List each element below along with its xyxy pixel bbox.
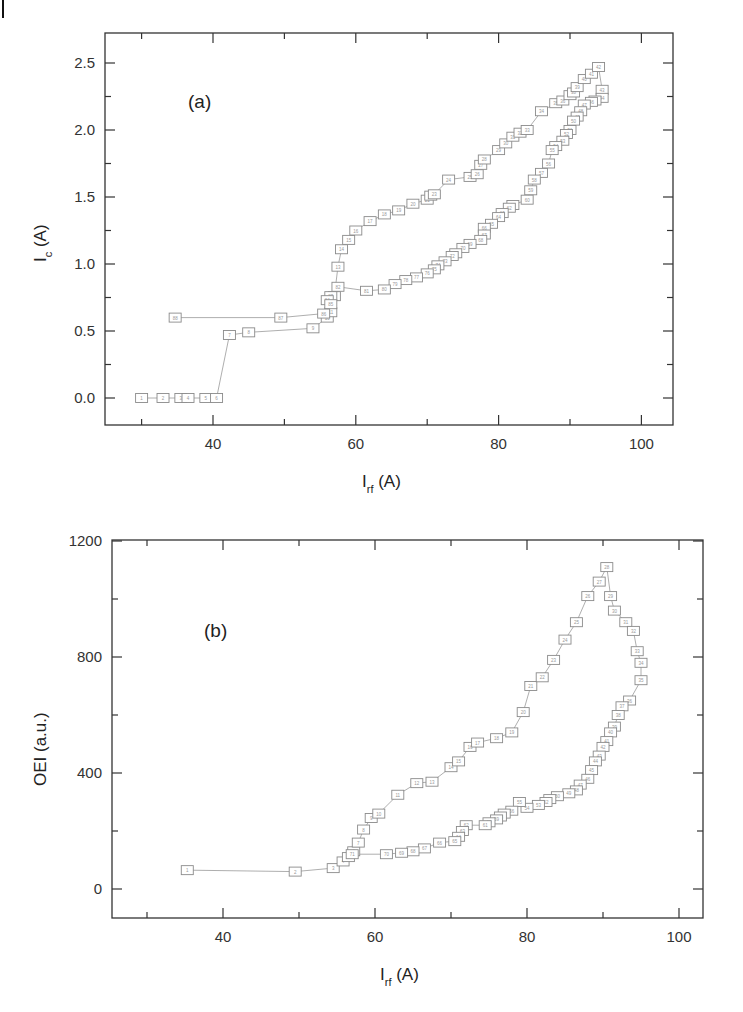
- marker-index: 38: [616, 713, 622, 718]
- marker-index: 86: [321, 312, 327, 317]
- marker-index: 37: [619, 704, 625, 709]
- marker-index: 26: [585, 594, 591, 599]
- marker-index: 29: [608, 594, 614, 599]
- x-tick-label: 80: [490, 435, 507, 452]
- marker-index: 60: [525, 198, 531, 203]
- panel-label: (b): [204, 620, 227, 641]
- marker-index: 17: [475, 741, 481, 746]
- chart-panel-b: 40608010004008001200 1234567891011121314…: [31, 532, 703, 988]
- marker-index: 66: [437, 841, 443, 846]
- marker-index: 34: [638, 661, 644, 666]
- data-series: 1234567891011121314151617181920212223242…: [136, 63, 609, 403]
- marker-index: 78: [403, 278, 409, 283]
- marker-index: 18: [494, 736, 500, 741]
- marker-index: 55: [550, 148, 556, 153]
- marker-index: 67: [422, 846, 428, 851]
- x-tick-label: 60: [367, 928, 384, 945]
- marker-index: 79: [393, 282, 399, 287]
- marker-index: 24: [562, 638, 568, 643]
- y-tick-label: 1200: [69, 532, 102, 549]
- marker-index: 77: [414, 275, 420, 280]
- x-tick-label: 60: [347, 435, 364, 452]
- marker-index: 70: [384, 852, 390, 857]
- y-tick-label: 1.5: [74, 188, 95, 205]
- y-tick-label: 400: [77, 764, 102, 781]
- marker-index: 11: [395, 793, 400, 798]
- marker-index: 45: [589, 768, 595, 773]
- y-tick-label: 2.0: [74, 121, 95, 138]
- marker-index: 49: [566, 791, 572, 796]
- marker-index: 44: [593, 759, 599, 764]
- marker-index: 61: [483, 823, 489, 828]
- marker-index: 31: [623, 620, 629, 625]
- marker-index: 56: [546, 162, 552, 167]
- marker-index: 41: [589, 72, 595, 77]
- marker-index: 23: [432, 192, 438, 197]
- marker-index: 39: [575, 85, 581, 90]
- marker-index: 27: [597, 580, 603, 585]
- x-tick-label: 100: [666, 928, 691, 945]
- figure: 4060801000.00.51.01.52.02.5 123456789101…: [0, 0, 743, 1012]
- marker-index: 68: [410, 849, 416, 854]
- x-tick-label: 40: [205, 435, 222, 452]
- marker-index: 21: [528, 684, 534, 689]
- marker-index: 87: [278, 316, 284, 321]
- y-tick-label: 1.0: [74, 255, 95, 272]
- marker-index: 13: [429, 780, 435, 785]
- marker-index: 28: [604, 565, 610, 570]
- marker-index: 30: [612, 609, 618, 614]
- x-tick-label: 80: [519, 928, 536, 945]
- marker-index: 53: [536, 803, 542, 808]
- marker-index: 28: [482, 157, 488, 162]
- marker-index: 18: [382, 212, 388, 217]
- marker-index: 82: [335, 285, 341, 290]
- y-axis-title: OEI (a.u.): [31, 712, 50, 786]
- panel-label: (a): [188, 91, 211, 112]
- marker-index: 42: [596, 65, 602, 70]
- marker-index: 25: [574, 620, 580, 625]
- marker-index: 59: [528, 188, 534, 193]
- marker-index: 33: [525, 128, 531, 133]
- marker-index: 76: [425, 271, 431, 276]
- x-axis-title: Irf (A): [362, 472, 401, 495]
- marker-index: 68: [478, 238, 484, 243]
- y-tick-label: 800: [77, 648, 102, 665]
- marker-index: 15: [456, 759, 462, 764]
- marker-index: 24: [446, 178, 452, 183]
- x-axis-title: Irf (A): [380, 965, 419, 988]
- marker-index: 29: [496, 148, 502, 153]
- y-tick-label: 0: [94, 880, 102, 897]
- marker-index: 35: [638, 678, 644, 683]
- y-axis-title: Ic (A): [31, 224, 54, 262]
- y-tick-label: 0.5: [74, 322, 95, 339]
- marker-index: 19: [396, 208, 402, 213]
- marker-index: 23: [551, 658, 557, 663]
- marker-index: 85: [328, 302, 334, 307]
- marker-index: 20: [410, 202, 416, 207]
- chart-panel-a: 4060801000.00.51.01.52.02.5 123456789101…: [31, 33, 673, 495]
- marker-index: 42: [600, 745, 606, 750]
- marker-index: 17: [368, 219, 374, 224]
- marker-index: 32: [631, 629, 637, 634]
- marker-index: 12: [414, 781, 420, 786]
- marker-index: 34: [539, 109, 545, 114]
- series-line: [187, 567, 641, 872]
- marker-index: 13: [335, 265, 341, 270]
- data-series: 1234567891011121314151617181920212223242…: [181, 563, 647, 877]
- marker-index: 10: [376, 812, 382, 817]
- marker-index: 40: [608, 730, 614, 735]
- y-tick-label: 2.5: [74, 54, 95, 71]
- y-tick-label: 0.0: [74, 389, 95, 406]
- marker-index: 71: [350, 852, 356, 857]
- marker-index: 55: [517, 800, 523, 805]
- x-tick-label: 40: [215, 928, 232, 945]
- marker-index: 15: [346, 238, 352, 243]
- marker-index: 14: [339, 247, 345, 252]
- marker-index: 16: [353, 229, 359, 234]
- marker-index: 80: [382, 287, 388, 292]
- marker-index: 26: [475, 172, 481, 177]
- marker-index: 58: [532, 178, 538, 183]
- marker-index: 69: [399, 851, 405, 856]
- x-tick-label: 100: [629, 435, 654, 452]
- marker-index: 30: [503, 141, 509, 146]
